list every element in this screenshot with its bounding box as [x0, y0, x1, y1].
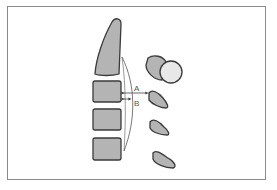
- vertebral-body-2: [93, 109, 121, 130]
- femoral-head: [160, 61, 182, 83]
- label-a: A: [134, 84, 140, 93]
- posterior-element-2: [150, 120, 169, 135]
- ligament-curve-inner: [122, 57, 125, 151]
- vertebral-body-3: [93, 138, 121, 160]
- upper-vertebra: [95, 19, 121, 76]
- vertebral-body-1: [93, 81, 121, 102]
- spine-diagram: A B: [0, 0, 277, 190]
- posterior-element-1: [149, 91, 168, 108]
- label-b: B: [134, 99, 139, 108]
- posterior-element-3: [153, 152, 175, 168]
